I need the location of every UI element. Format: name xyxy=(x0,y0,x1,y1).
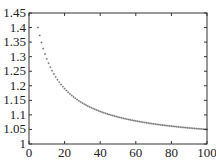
data-point xyxy=(176,126,178,128)
data-point xyxy=(185,127,187,129)
data-point xyxy=(94,108,96,110)
data-point xyxy=(119,116,121,118)
data-point xyxy=(80,101,82,103)
x-tick-label: 60 xyxy=(129,145,142,160)
data-point xyxy=(165,125,167,127)
data-point xyxy=(71,94,73,96)
y-tick-label: 1.05 xyxy=(3,121,26,136)
data-point xyxy=(126,118,128,120)
data-point xyxy=(53,73,55,75)
y-tick-label: 1.15 xyxy=(3,92,26,107)
data-point xyxy=(129,119,131,121)
data-point xyxy=(160,124,162,126)
data-point xyxy=(192,127,194,129)
x-tick-label: 100 xyxy=(197,145,216,160)
data-point xyxy=(174,126,176,128)
data-point xyxy=(163,124,165,126)
data-point xyxy=(105,112,107,114)
x-tick-label: 80 xyxy=(165,145,178,160)
data-point xyxy=(55,76,57,78)
data-point xyxy=(122,117,124,119)
data-point xyxy=(117,116,119,118)
data-point xyxy=(169,125,171,127)
data-point xyxy=(97,110,99,112)
data-point xyxy=(149,122,151,124)
data-point xyxy=(147,122,149,124)
data-point xyxy=(135,120,137,122)
y-tick-label: 1 xyxy=(20,136,27,151)
data-point xyxy=(74,97,76,99)
data-point xyxy=(46,58,48,60)
plot-frame xyxy=(29,13,207,144)
data-point xyxy=(197,128,199,130)
scatter-chart: 02040608010011.051.11.151.21.251.31.351.… xyxy=(0,0,216,161)
x-tick-label: 40 xyxy=(94,145,107,160)
data-point xyxy=(69,93,71,95)
data-point xyxy=(90,107,92,109)
data-point xyxy=(201,128,203,130)
y-tick-label: 1.25 xyxy=(3,63,26,78)
data-point xyxy=(58,81,60,83)
data-point xyxy=(151,123,153,125)
data-point xyxy=(40,41,42,43)
y-tick-label: 1.4 xyxy=(10,20,27,35)
data-point xyxy=(178,126,180,128)
data-point xyxy=(142,121,144,123)
data-point xyxy=(108,113,110,115)
data-point xyxy=(183,126,185,128)
data-point xyxy=(140,121,142,123)
data-point xyxy=(144,122,146,124)
data-point xyxy=(194,127,196,129)
data-point xyxy=(60,84,62,86)
data-point xyxy=(85,104,87,106)
x-tick-label: 0 xyxy=(26,145,33,160)
data-point xyxy=(112,115,114,117)
data-point xyxy=(106,113,108,115)
data-point xyxy=(167,125,169,127)
data-point xyxy=(154,123,156,125)
data-point xyxy=(158,124,160,126)
data-point xyxy=(170,125,172,127)
data-point xyxy=(67,91,69,93)
y-tick-label: 1.3 xyxy=(10,49,26,64)
data-point xyxy=(124,118,126,120)
data-point xyxy=(186,127,188,129)
data-point xyxy=(190,127,192,129)
data-points xyxy=(37,27,208,131)
data-point xyxy=(92,108,94,110)
data-point xyxy=(51,70,53,72)
data-point xyxy=(101,111,103,113)
data-point xyxy=(181,126,183,128)
y-tick-label: 1.45 xyxy=(3,5,26,20)
data-point xyxy=(137,120,139,122)
data-point xyxy=(131,119,133,121)
axes: 02040608010011.051.11.151.21.251.31.351.… xyxy=(3,5,216,160)
data-point xyxy=(128,119,130,121)
data-point xyxy=(64,88,66,90)
data-point xyxy=(42,48,44,50)
data-point xyxy=(48,62,50,64)
data-point xyxy=(83,103,85,105)
data-point xyxy=(76,99,78,101)
data-point xyxy=(179,126,181,128)
data-point xyxy=(65,90,67,92)
data-point xyxy=(87,105,89,107)
data-point xyxy=(199,128,201,130)
data-point xyxy=(113,115,115,117)
y-tick-label: 1.1 xyxy=(10,107,26,122)
data-point xyxy=(145,122,147,124)
data-point xyxy=(103,112,105,114)
data-point xyxy=(96,109,98,111)
data-point xyxy=(121,117,123,119)
data-point xyxy=(56,79,58,81)
data-point xyxy=(78,100,80,102)
data-point xyxy=(49,66,51,68)
data-point xyxy=(39,35,41,37)
data-point xyxy=(195,128,197,130)
y-tick-label: 1.35 xyxy=(3,34,26,49)
data-point xyxy=(138,121,140,123)
data-point xyxy=(188,127,190,129)
data-point xyxy=(172,125,174,127)
data-point xyxy=(62,86,64,88)
data-point xyxy=(37,27,39,29)
